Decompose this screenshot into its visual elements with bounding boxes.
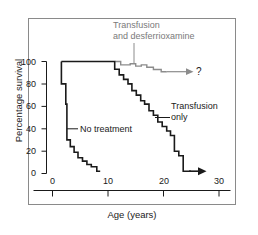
survival-chart-figure: 100 80 60 40 20 0 0 10 20 30 Percentage … — [0, 0, 258, 235]
x-tick-label-0: 0 — [42, 176, 63, 186]
black-curve-arrow-head — [198, 167, 207, 175]
annotation-question-mark: ? — [196, 66, 202, 77]
curve-transfusion-desferrioxamine — [115, 62, 167, 72]
x-tick-label-30: 30 — [208, 176, 230, 186]
x-axis-title: Age (years) — [86, 209, 178, 220]
annotation-transfusion-gray: Transfusion — [113, 20, 160, 31]
curve-no-treatment — [61, 62, 100, 172]
annotation-no-treatment: No treatment — [80, 124, 132, 135]
annotation-transfusion: Transfusion — [171, 101, 218, 112]
x-tick-label-10: 10 — [97, 176, 119, 186]
y-axis-title: Percentage survival — [13, 58, 24, 144]
annotation-desferrioxamine-gray: and desferrioxamine — [113, 31, 195, 42]
y-tick-marks — [42, 62, 47, 174]
x-tick-marks — [53, 191, 220, 197]
y-tick-label-20: 20 — [14, 146, 36, 156]
annotation-only: only — [171, 112, 188, 123]
y-tick-label-0: 0 — [14, 168, 36, 178]
x-tick-label-20: 20 — [153, 176, 175, 186]
gray-curve-arrow-head — [186, 68, 194, 75]
